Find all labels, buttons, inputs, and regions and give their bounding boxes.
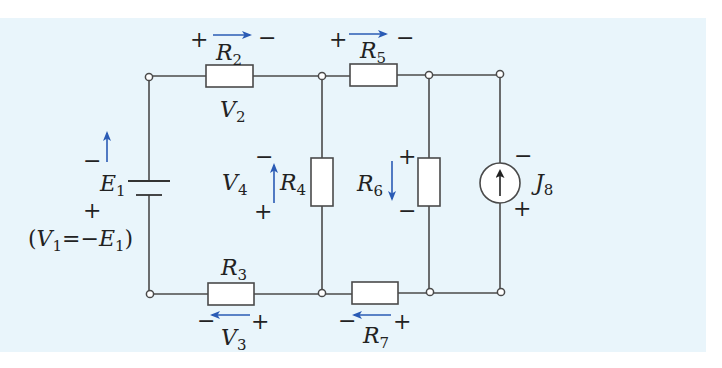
sign-plus-j8: +	[513, 196, 531, 221]
node-bottom-1	[146, 290, 153, 297]
sign-plus-r6: +	[398, 144, 416, 169]
resistor-r2	[206, 65, 253, 87]
sign-minus-j8: −	[514, 143, 532, 168]
resistor-r5	[350, 64, 397, 86]
sign-plus-r5: +	[329, 27, 347, 52]
sign-minus-e1: −	[83, 148, 101, 173]
node-top-4	[496, 70, 503, 77]
circuit-diagram: + − R2 V2 + − R5 R3 − + V3 − + R7 − + V4…	[0, 0, 722, 368]
sign-minus-r2: −	[258, 25, 276, 50]
node-bottom-2	[318, 289, 325, 296]
sign-minus-r5: −	[396, 25, 414, 50]
resistor-r3	[208, 283, 254, 305]
sign-minus-r4: −	[255, 144, 273, 169]
resistor-r4	[311, 158, 333, 206]
resistor-r6	[418, 158, 440, 206]
sign-plus-r2: +	[190, 27, 208, 52]
sign-minus-r6: −	[398, 198, 416, 223]
node-bottom-4	[497, 288, 504, 295]
sign-plus-r3: +	[251, 309, 269, 334]
sign-minus-r3: −	[197, 308, 215, 333]
node-bottom-3	[426, 288, 433, 295]
node-top-1	[145, 73, 152, 80]
node-top-3	[425, 71, 432, 78]
resistor-r7	[352, 282, 398, 304]
sign-plus-e1: +	[83, 198, 101, 223]
sign-plus-r4: +	[254, 199, 272, 224]
circuit-svg: + − R2 V2 + − R5 R3 − + V3 − + R7 − + V4…	[0, 0, 722, 368]
node-top-2	[318, 72, 325, 79]
sign-plus-r7: +	[393, 309, 411, 334]
sign-minus-r7: −	[338, 308, 356, 333]
